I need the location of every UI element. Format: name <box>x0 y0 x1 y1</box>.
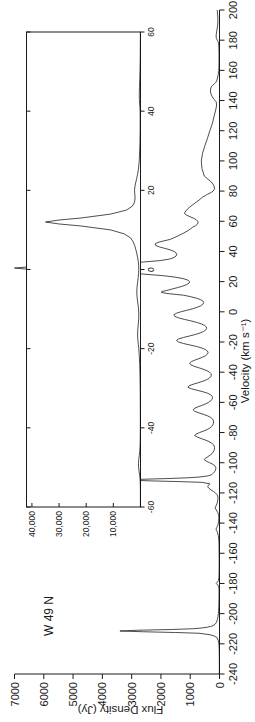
x-tick-label: 180 <box>226 31 238 49</box>
x-tick-label: -240 <box>226 663 238 685</box>
x-tick-label: -200 <box>226 603 238 625</box>
x-tick-label: -160 <box>226 542 238 564</box>
inset-x-tick-label: 20 <box>145 185 155 195</box>
inset-y-tick-label: 40,000 <box>26 511 36 537</box>
x-tick-label: -120 <box>226 482 238 504</box>
inset-axes-group: -60-40-20020406010,00020,00030,00040,000 <box>26 27 155 537</box>
inset-y-tick-label: 10,000 <box>108 511 118 537</box>
y-axis-title: Flux Density (Jy) <box>77 704 163 716</box>
x-tick-label: -80 <box>226 425 238 441</box>
inset-x-tick-label: 0 <box>145 267 155 272</box>
x-tick-label: 200 <box>226 1 238 19</box>
y-tick-label: 3000 <box>125 682 137 706</box>
y-tick-label: 2000 <box>154 682 166 706</box>
x-tick-label: -60 <box>226 394 238 410</box>
y-tick-label: 0 <box>213 682 225 688</box>
x-tick-label: -40 <box>226 364 238 380</box>
inset-x-tick-label: -40 <box>145 421 155 434</box>
y-tick-label: 1000 <box>184 682 196 706</box>
x-tick-label: -20 <box>226 334 238 350</box>
x-tick-label: -220 <box>226 633 238 655</box>
source-label: W 49 N <box>41 596 55 636</box>
rotated-figure-container: -240-220-200-180-160-140-120-100-80-60-4… <box>0 0 255 722</box>
y-tick-label: 6000 <box>37 682 49 706</box>
spectrum-chart: -240-220-200-180-160-140-120-100-80-60-4… <box>0 0 255 722</box>
x-tick-label: -100 <box>226 452 238 474</box>
y-tick-label: 7000 <box>8 682 20 706</box>
x-tick-label: 120 <box>226 122 238 140</box>
x-tick-label: 60 <box>226 215 238 227</box>
x-tick-label: 40 <box>226 245 238 257</box>
x-tick-label: 100 <box>226 152 238 170</box>
inset-x-tick-label: -60 <box>145 501 155 514</box>
x-tick-label: 160 <box>226 61 238 79</box>
y-tick-label: 5000 <box>67 682 79 706</box>
x-tick-label: 80 <box>226 185 238 197</box>
x-tick-label: 20 <box>226 276 238 288</box>
x-tick-label: -180 <box>226 572 238 594</box>
x-tick-label: -140 <box>226 512 238 534</box>
x-axis-title: Velocity (km s⁻¹) <box>238 319 250 404</box>
figure-page: -240-220-200-180-160-140-120-100-80-60-4… <box>0 0 255 722</box>
inset-x-tick-label: -20 <box>145 342 155 355</box>
inset-x-tick-label: 60 <box>145 27 155 37</box>
y-tick-label: 4000 <box>96 682 108 706</box>
x-tick-label: 0 <box>226 309 238 315</box>
inset-y-tick-label: 20,000 <box>81 511 91 537</box>
inset-x-tick-label: 40 <box>145 106 155 116</box>
inset-y-tick-label: 30,000 <box>54 511 64 537</box>
x-tick-label: 140 <box>226 91 238 109</box>
